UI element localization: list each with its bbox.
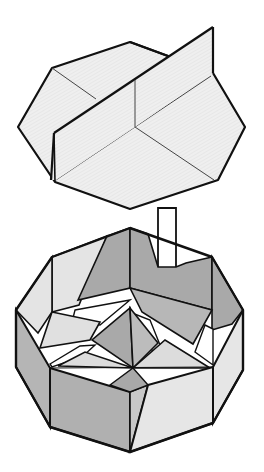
- lid-unit: [18, 27, 245, 209]
- lid-flap-edge: [54, 133, 55, 182]
- base-unit: [16, 228, 243, 452]
- origami-diagram: Origami octagonal box assembly: [0, 0, 264, 472]
